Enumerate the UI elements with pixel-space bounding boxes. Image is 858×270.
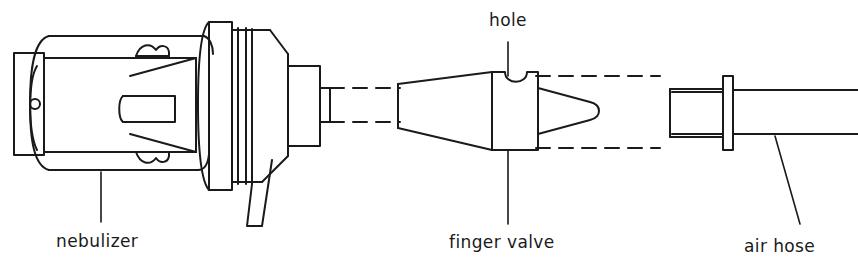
leader-line-air-hose <box>775 136 800 224</box>
nebulizer-port-circle <box>30 99 40 109</box>
technical-diagram: nebulizer hole finger valve air hose <box>0 0 858 270</box>
finger-valve-sleeve-top <box>398 72 492 84</box>
label-finger-valve: finger valve <box>449 232 555 252</box>
nebulizer-taper-bottom <box>262 156 288 182</box>
label-nebulizer: nebulizer <box>56 231 138 251</box>
finger-valve-cone-tip <box>538 88 599 134</box>
nebulizer-taper-top <box>270 30 288 54</box>
nebulizer-part <box>14 22 330 226</box>
nebulizer-upper-tab <box>136 45 169 56</box>
nebulizer-internal-tube-cap <box>119 96 123 122</box>
label-air-hose: air hose <box>744 236 815 256</box>
finger-valve-sleeve-bottom <box>398 128 492 150</box>
alignment-dashed-lines <box>330 76 660 148</box>
finger-valve-part <box>398 72 599 150</box>
nebulizer-fin <box>247 160 272 226</box>
label-hole: hole <box>489 10 527 30</box>
nebulizer-nozzle-spigot <box>320 88 330 122</box>
nebulizer-cone-bottom <box>130 134 196 152</box>
nebulizer-lower-tab <box>136 152 169 163</box>
diagram-canvas: nebulizer hole finger valve air hose <box>0 0 858 270</box>
finger-valve-block <box>492 72 538 150</box>
nebulizer-flange-arc <box>198 22 209 190</box>
air-hose-part <box>670 76 858 150</box>
nebulizer-nozzle-block <box>288 66 320 146</box>
air-hose-flange <box>723 76 733 150</box>
nebulizer-cone-top <box>130 58 196 76</box>
nebulizer-internal-tube <box>123 96 175 122</box>
